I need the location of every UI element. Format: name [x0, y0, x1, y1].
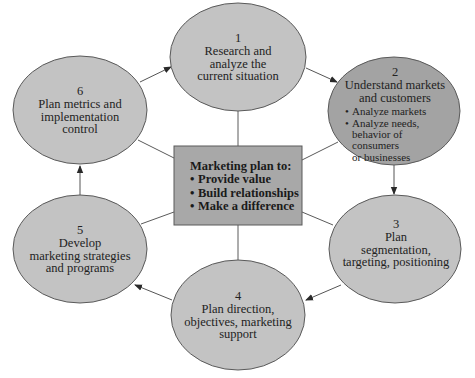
arrow-step-3-to-4	[306, 285, 341, 300]
center-bullet: Make a difference	[190, 200, 299, 213]
arrow-step-4-to-5	[135, 285, 172, 300]
step-number: 5	[25, 224, 135, 237]
arrow-step-1-to-2	[306, 68, 337, 82]
center-bullet: Build relationships	[190, 187, 299, 200]
spoke-to-step-3	[302, 212, 333, 225]
step-line: current situation	[188, 70, 288, 83]
step-line: Research and	[188, 45, 288, 58]
step-line: support	[183, 328, 293, 341]
spoke-to-step-2	[302, 142, 338, 160]
step-number: 1	[188, 32, 288, 45]
step-4-label: 4 Plan direction, objectives, marketing …	[183, 290, 293, 341]
step-number: 6	[25, 85, 135, 98]
step-number: 4	[183, 290, 293, 303]
bullet-item: Analyze markets	[345, 106, 450, 117]
step-line: Plan direction,	[183, 303, 293, 316]
step-5-label: 5 Develop marketing strategies and progr…	[25, 224, 135, 275]
center-box-text: Marketing plan to: Provide value Build r…	[190, 160, 299, 213]
center-bullets: Provide value Build relationships Make a…	[190, 173, 299, 213]
step-number: 2	[340, 66, 450, 79]
bullet-continuation: behavior of consumers	[345, 129, 450, 152]
step-6-label: 6 Plan metrics and implementation contro…	[25, 85, 135, 136]
center-bullet: Provide value	[190, 173, 299, 186]
step-3-label: 3 Plan segmentation, targeting, position…	[340, 218, 452, 269]
spoke-to-step-5	[141, 212, 174, 224]
step-line: Plan	[340, 231, 452, 244]
center-title: Marketing plan to:	[190, 160, 299, 173]
bullet-continuation: or businesses	[345, 152, 450, 163]
step-2-label: 2 Understand markets and customers Analy…	[340, 66, 450, 163]
step-line: and customers	[340, 92, 450, 105]
step-line: Plan metrics and	[25, 98, 135, 111]
step-line: control	[25, 123, 135, 136]
step-1-label: 1 Research and analyze the current situa…	[188, 32, 288, 83]
step-line: Develop	[25, 237, 135, 250]
spoke-to-step-6	[138, 140, 174, 158]
step-line: targeting, positioning	[340, 256, 452, 269]
arrow-step-6-to-1	[140, 67, 171, 82]
step-line: and programs	[25, 262, 135, 275]
step-number: 3	[340, 218, 452, 231]
step-2-bullets: Analyze markets Analyze needs, behavior …	[340, 106, 450, 162]
step-line: Understand markets	[340, 79, 450, 92]
